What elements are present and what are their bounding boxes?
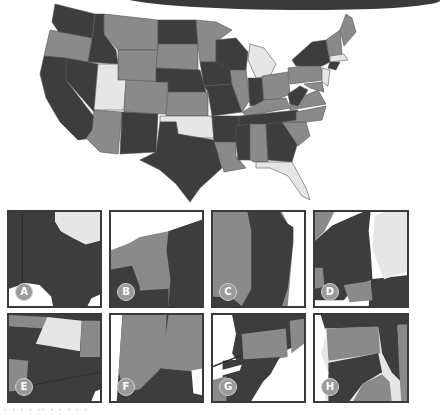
state-florida [256,162,310,200]
caption-fragment: · · · · ·· · · · · · [4,406,89,414]
panel-b: B [109,210,204,308]
state-ohio [262,72,290,100]
panel-label: D [321,283,339,301]
panel-label: H [321,378,339,396]
panel-label: B [117,283,135,301]
state-connecticut [328,62,340,70]
state-colorado [124,80,168,114]
panel-label: A [15,283,33,301]
panel-g: G [211,313,306,403]
state-new-mexico [120,112,158,154]
state-new-jersey [322,68,330,86]
panel-label: C [219,283,237,301]
state-new-york [292,40,330,66]
panel-d: D [313,210,409,308]
panel-label: F [117,378,135,396]
state-south-dakota [156,44,198,70]
panel-h: H [313,313,409,403]
panel-a: A [7,210,102,308]
state-kansas [166,92,208,116]
state-maine [340,14,356,46]
panel-label: G [219,378,237,396]
state-michigan [248,44,276,78]
state-north-dakota [158,20,198,44]
us-states-map [0,0,409,205]
panel-f: F [109,313,204,403]
panel-label: E [15,378,33,396]
panel-e: E [7,313,102,403]
state-pennsylvania [288,64,324,84]
state-wyoming [118,50,158,82]
panel-c: C [211,210,306,308]
state-mississippi [236,124,250,160]
state-alabama [250,124,268,162]
